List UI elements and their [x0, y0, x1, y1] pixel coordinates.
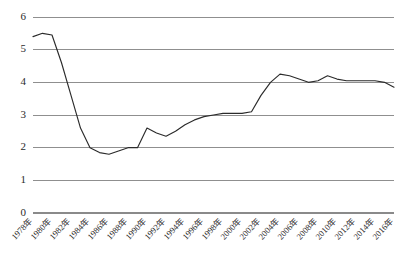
- y-axis-tick-label: 0: [21, 206, 27, 218]
- y-axis-tick-label: 6: [21, 10, 27, 22]
- y-axis-tick-label: 3: [21, 108, 27, 120]
- y-axis-tick-label: 2: [21, 140, 27, 152]
- data-series-line: [33, 33, 394, 154]
- y-axis-tick-labels: 0123456: [21, 10, 27, 218]
- x-axis-tick-label: 2016年: [370, 215, 396, 242]
- y-axis-tick-label: 4: [21, 75, 27, 87]
- chart-canvas: 0123456 1978年1980年1982年1984年1986年1988年19…: [0, 0, 407, 266]
- line-chart: 0123456 1978年1980年1982年1984年1986年1988年19…: [0, 0, 407, 266]
- series-group: [33, 33, 394, 154]
- x-axis-tick-labels: 1978年1980年1982年1984年1986年1988年1990年1992年…: [9, 215, 396, 242]
- y-axis-tick-label: 1: [21, 173, 27, 185]
- y-axis-tick-label: 5: [21, 42, 27, 54]
